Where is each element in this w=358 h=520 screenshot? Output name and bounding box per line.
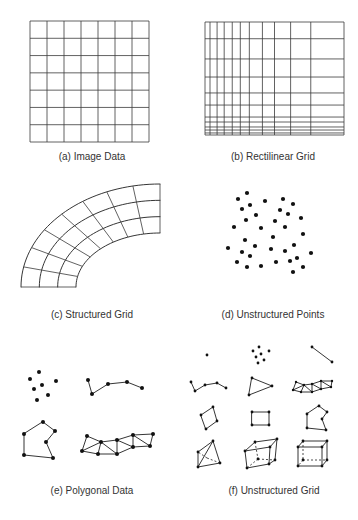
cell-pixel-point [251,424,254,427]
cell-triangle-point [251,377,254,380]
cell-wedge-point [244,450,247,453]
grid-line-radial [32,248,83,267]
triangle-strip-vertex [131,445,135,449]
point [245,191,249,195]
point [281,197,285,201]
cell-triangle-strip-edge [321,381,331,387]
cell-tetra-edge [198,441,213,467]
triangle-strip-vertex [99,440,103,444]
panel-label-structured-grid: (c) Structured Grid [51,309,133,320]
cell-polyline-point [216,382,219,385]
cell-tetra-point [197,466,200,469]
cell-poly-vertex-point [257,362,260,365]
point [295,256,299,260]
panel-image-data [30,21,149,142]
cell-poly-vertex-point [255,356,258,359]
polyline-vertex [125,380,129,384]
point [245,265,249,269]
point [273,219,277,223]
triangle-strip-vertex [80,449,84,453]
cell-tetra-hidden-edge [207,458,220,463]
point [309,251,313,255]
panel-label-polygonal-data: (e) Polygonal Data [51,485,134,496]
cell-poly-vertex-point [268,350,271,353]
cell-polygon-point [321,418,324,421]
cell-wedge-edge [275,439,277,460]
point [283,225,287,229]
panel-rectilinear-grid [205,22,344,135]
cell-wedge-edge [247,464,269,468]
point [240,250,244,254]
panel-polygonal-data [22,370,155,460]
vertex [37,370,41,374]
panel-unstructured-grid [190,346,334,470]
point [254,213,258,217]
point [291,202,295,206]
cell-hexahedron-point [297,446,300,449]
polygon-vertex [44,440,48,444]
cell-wedge-point [254,441,257,444]
triangle-strip-vertex [115,438,119,442]
grid-line-radial [133,186,144,234]
cell-triangle-strip-point [300,391,302,393]
cell-tetra-edge [198,441,213,452]
point [226,246,230,250]
point [259,264,263,268]
figure: (a) Image Data (b) Rectilinear Grid (c) … [0,0,358,520]
cell-triangle-strip-point [303,384,305,386]
grid-line-radial [107,192,128,237]
point [291,270,295,274]
grid-line-radial [24,267,78,277]
triangle-strip-edge [133,435,150,446]
cell-polygon [307,406,327,430]
cell-pixel-point [251,411,254,414]
cell-tetra-point [197,451,200,454]
triangle-strip-edge [82,451,98,454]
triangle-strip-edge [101,440,117,442]
cell-polygon-point [325,429,328,432]
triangle-strip-edge [117,447,133,454]
triangle-strip-edge [117,440,133,447]
cell-triangle-point [271,385,274,388]
polygon-vertex [41,420,45,424]
point [248,254,252,258]
point [243,238,247,242]
vertex [35,398,39,402]
triangle-strip-vertex [85,434,89,438]
triangle-strip-vertex [131,433,135,437]
cell-polyline-point [190,381,193,384]
cell-triangle-strip-edge [296,382,304,385]
cell-polygon-point [326,411,329,414]
grid-arc [39,200,160,287]
cell-wedge-edge [245,451,247,468]
vertex [46,393,50,397]
cell-hexahedron-point [321,446,324,449]
point [288,259,292,263]
cell-quad-point [212,406,215,409]
cell-polyline-point [194,390,197,393]
triangle-strip-vertex [96,452,100,456]
point [248,203,252,207]
cell-wedge-point [276,438,279,441]
point [299,216,303,220]
point [236,197,240,201]
point [274,260,278,264]
vertex [32,387,36,391]
cell-line [312,347,332,362]
polygon-vertex [22,453,26,457]
triangle-strip-edge [133,434,153,435]
triangle-strip-vertex [115,452,119,456]
point [269,247,273,251]
panel-structured-grid [21,184,160,287]
panel-label-rectilinear-grid: (b) Rectilinear Grid [231,151,315,162]
cell-triangle-point [248,394,251,397]
cell-triangle-strip-point [295,381,297,383]
point [244,218,248,222]
vertex [28,377,32,381]
polygon [24,422,55,458]
cell-wedge-point [257,458,260,461]
cell-triangle-strip-point [331,380,333,382]
cell-polygon-point [306,427,309,430]
triangle-strip-edge [117,435,133,440]
cell-wedge-point [268,463,271,466]
